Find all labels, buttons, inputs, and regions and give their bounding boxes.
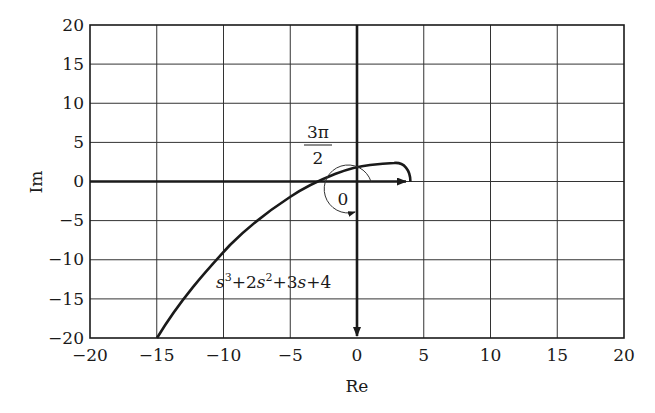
svg-text:−15: −15 bbox=[48, 289, 84, 309]
svg-text:20: 20 bbox=[62, 15, 84, 35]
y-axis-label: Im bbox=[26, 171, 46, 194]
svg-text:0: 0 bbox=[73, 171, 84, 191]
polynomial-locus-curve bbox=[157, 163, 410, 338]
svg-text:15: 15 bbox=[62, 54, 84, 74]
svg-text:10: 10 bbox=[480, 345, 502, 365]
chart-canvas: 3π 2 0 s3+2s2+3s+4 20 15 10 5 0 −5 −10 −… bbox=[0, 0, 655, 413]
svg-text:−10: −10 bbox=[206, 345, 242, 365]
annotation-3pi-numerator: 3π bbox=[307, 122, 329, 142]
svg-text:−20: −20 bbox=[72, 345, 108, 365]
svg-text:10: 10 bbox=[62, 93, 84, 113]
svg-text:20: 20 bbox=[613, 345, 635, 365]
y-tick-labels: 20 15 10 5 0 −5 −10 −15 −20 bbox=[48, 15, 84, 348]
polynomial-label: s3+2s2+3s+4 bbox=[216, 271, 331, 292]
svg-text:−10: −10 bbox=[48, 249, 84, 269]
x-tick-labels: −20 −15 −10 −5 0 5 10 15 20 bbox=[72, 345, 635, 365]
x-axis-label: Re bbox=[346, 376, 369, 396]
svg-text:−5: −5 bbox=[278, 345, 303, 365]
annotation-zero-angle: 0 bbox=[338, 189, 349, 209]
svg-text:0: 0 bbox=[352, 345, 363, 365]
svg-text:−15: −15 bbox=[139, 345, 175, 365]
annotation-3pi-denominator: 2 bbox=[313, 148, 324, 168]
svg-text:15: 15 bbox=[546, 345, 568, 365]
svg-text:5: 5 bbox=[418, 345, 429, 365]
svg-text:5: 5 bbox=[73, 132, 84, 152]
svg-text:−5: −5 bbox=[59, 210, 84, 230]
